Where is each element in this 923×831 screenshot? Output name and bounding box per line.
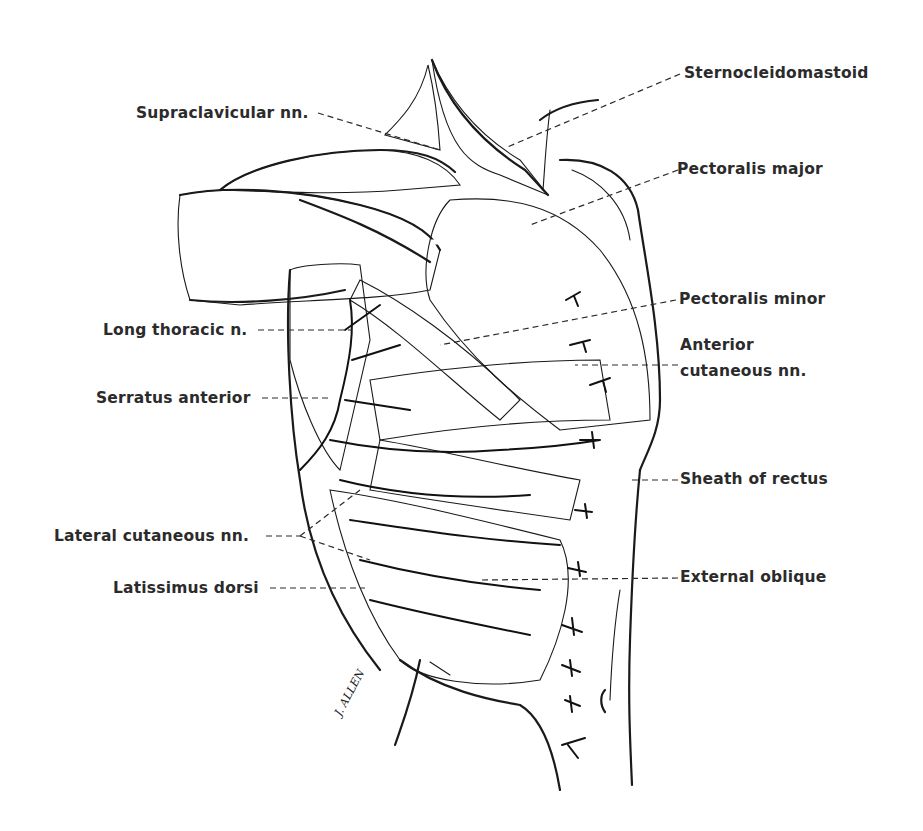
- shoulder-muscles: [178, 150, 460, 305]
- label-pectoralis-major: Pectoralis major: [677, 160, 823, 178]
- label-anterior-cutaneous-nn-line2: cutaneous nn.: [680, 362, 807, 380]
- label-latissimus-dorsi: Latissimus dorsi: [113, 579, 259, 597]
- torso-drawing: [0, 0, 923, 831]
- rectus-sheath: [601, 470, 640, 785]
- label-serratus-anterior: Serratus anterior: [96, 389, 251, 407]
- pectoralis-major-muscle: [426, 160, 660, 470]
- label-sternocleidomastoid: Sternocleidomastoid: [684, 64, 869, 82]
- pectoralis-minor-muscle: [350, 280, 610, 520]
- label-external-oblique: External oblique: [680, 568, 827, 586]
- label-pectoralis-minor: Pectoralis minor: [679, 290, 825, 308]
- leader-lines: [258, 74, 680, 588]
- sternocleidomastoid-muscle: [385, 60, 598, 195]
- label-sheath-of-rectus: Sheath of rectus: [680, 470, 828, 488]
- label-anterior-cutaneous-nn-line1: Anterior: [680, 336, 754, 354]
- anatomy-figure: Supraclavicular nn. Long thoracic n. Ser…: [0, 0, 923, 831]
- label-lateral-cutaneous-nn: Lateral cutaneous nn.: [54, 527, 249, 545]
- label-long-thoracic-n: Long thoracic n.: [103, 321, 247, 339]
- label-supraclavicular-nn: Supraclavicular nn.: [136, 104, 309, 122]
